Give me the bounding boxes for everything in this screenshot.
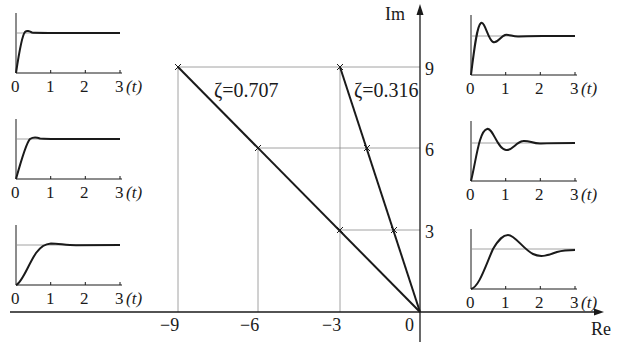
x-tick-0: 0 [405,315,414,335]
svg-text:0: 0 [466,293,475,312]
svg-text:1: 1 [46,77,55,96]
pole-zero-diagram: ζ=0.707 ζ=0.316 Im Re 9 6 3 −9 −6 −3 0 0… [0,0,620,342]
svg-text:3: 3 [115,77,124,96]
svg-text:3: 3 [570,293,579,312]
svg-text:(t): (t) [581,185,597,204]
re-axis-label: Re [591,319,611,339]
y-tick-3: 3 [425,222,434,242]
svg-text:3: 3 [115,289,124,308]
step-response-left-1: 0 1 2 3 (t) [11,13,142,96]
svg-text:0: 0 [466,185,475,204]
step-response-right-2: 0 1 2 3 (t) [466,121,597,204]
svg-text:(t): (t) [581,79,597,98]
svg-text:0: 0 [11,77,20,96]
svg-text:2: 2 [80,289,89,308]
zeta-0316-line [340,67,420,312]
svg-text:2: 2 [80,183,89,202]
svg-text:(t): (t) [126,183,142,202]
svg-text:3: 3 [570,79,579,98]
step-response-left-2: 0 1 2 3 (t) [11,119,142,202]
x-tick-m6: −6 [240,315,259,335]
svg-text:1: 1 [501,185,510,204]
step-response-left-3: 0 1 2 3 (t) [11,225,142,308]
svg-text:1: 1 [46,183,55,202]
x-tick-m9: −9 [160,315,179,335]
svg-text:3: 3 [115,183,124,202]
svg-text:3: 3 [570,185,579,204]
step-response-right-3: 0 1 2 3 (t) [466,229,597,312]
svg-text:1: 1 [46,289,55,308]
svg-text:2: 2 [535,185,544,204]
svg-text:0: 0 [466,79,475,98]
svg-text:0: 0 [11,183,20,202]
zeta-0316-label: ζ=0.316 [354,79,419,102]
complex-plane: ζ=0.707 ζ=0.316 Im Re 9 6 3 −9 −6 −3 0 [10,4,611,342]
svg-text:1: 1 [501,293,510,312]
svg-text:2: 2 [80,77,89,96]
x-tick-m3: −3 [322,315,341,335]
y-tick-9: 9 [425,59,434,79]
svg-text:0: 0 [11,289,20,308]
step-response-right-1: 0 1 2 3 (t) [466,15,597,98]
svg-text:(t): (t) [581,293,597,312]
svg-text:2: 2 [535,79,544,98]
im-axis-arrow-icon [417,4,424,15]
svg-text:1: 1 [501,79,510,98]
svg-text:2: 2 [535,293,544,312]
zeta-0707-line [178,67,420,312]
im-axis-label: Im [385,4,405,24]
y-tick-6: 6 [425,140,434,160]
svg-text:(t): (t) [126,77,142,96]
zeta-0707-label: ζ=0.707 [214,79,279,102]
svg-text:(t): (t) [126,289,142,308]
